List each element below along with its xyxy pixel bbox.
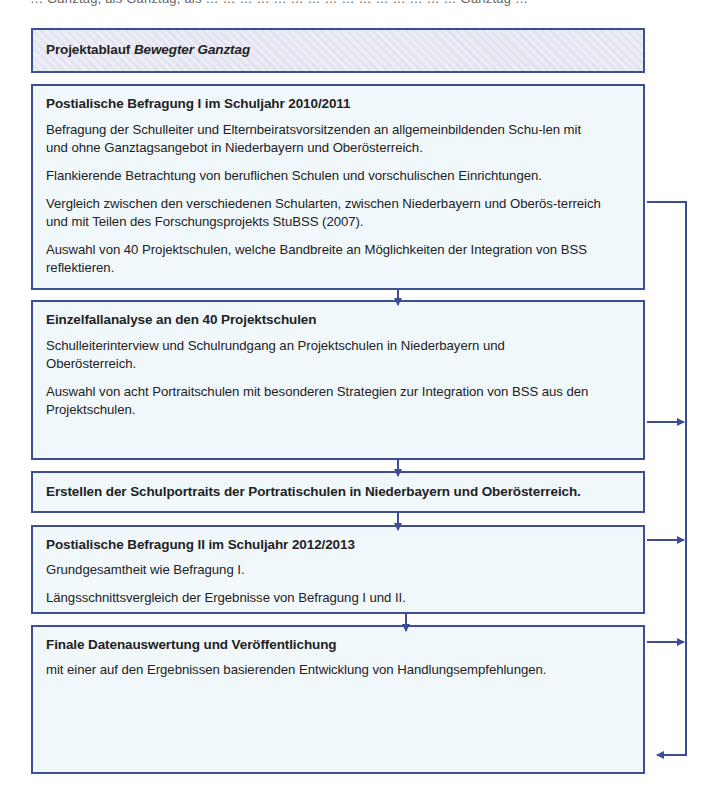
step-paragraph: mit einer auf den Ergebnissen basierende… bbox=[46, 661, 643, 679]
step-paragraph: Befragung der Schulleiter und Elternbeir… bbox=[46, 121, 606, 157]
step-box-survey-1: Postialische Befragung I im Schuljahr 20… bbox=[31, 84, 645, 290]
step-paragraph: Schulleiterinterview und Schulrundgang a… bbox=[46, 337, 586, 373]
step-box-school-portraits: Erstellen der Schulportraits der Portrat… bbox=[31, 471, 645, 513]
step-box-case-analysis: Einzelfallanalyse an den 40 Projektschul… bbox=[31, 300, 645, 460]
step-paragraph: Längsschnittsvergleich der Ergebnisse vo… bbox=[46, 589, 643, 607]
step-paragraph: Flankierende Betrachtung von beruflichen… bbox=[46, 167, 643, 185]
step-box-final-evaluation: Finale Datenauswertung und Veröffentlich… bbox=[31, 625, 645, 774]
header-title-italic: Bewegter Ganztag bbox=[134, 42, 250, 57]
feedback-line bbox=[647, 202, 686, 755]
header-title: Projektablauf Bewegter Ganztag bbox=[46, 30, 643, 57]
step-title: Postialische Befragung I im Schuljahr 20… bbox=[46, 96, 643, 111]
diagram-header: Projektablauf Bewegter Ganztag bbox=[31, 28, 645, 73]
step-title: Postialische Befragung II im Schuljahr 2… bbox=[46, 537, 643, 552]
step-title: Finale Datenauswertung und Veröffentlich… bbox=[46, 637, 643, 652]
step-paragraph: Auswahl von 40 Projektschulen, welche Ba… bbox=[46, 241, 606, 277]
step-paragraph: Grundgesamtheit wie Befragung I. bbox=[46, 561, 643, 579]
step-paragraph: Auswahl von acht Portraitschulen mit bes… bbox=[46, 383, 606, 419]
step-title: Erstellen der Schulportraits der Portrat… bbox=[46, 484, 643, 499]
step-paragraph: Vergleich zwischen den verschiedenen Sch… bbox=[46, 195, 606, 231]
cut-off-previous-text: … Ganztag, als Ganztag, als … … … … … … … bbox=[30, 0, 528, 6]
header-title-plain: Projektablauf bbox=[46, 42, 134, 57]
step-box-survey-2: Postialische Befragung II im Schuljahr 2… bbox=[31, 525, 645, 614]
step-title: Einzelfallanalyse an den 40 Projektschul… bbox=[46, 312, 643, 327]
